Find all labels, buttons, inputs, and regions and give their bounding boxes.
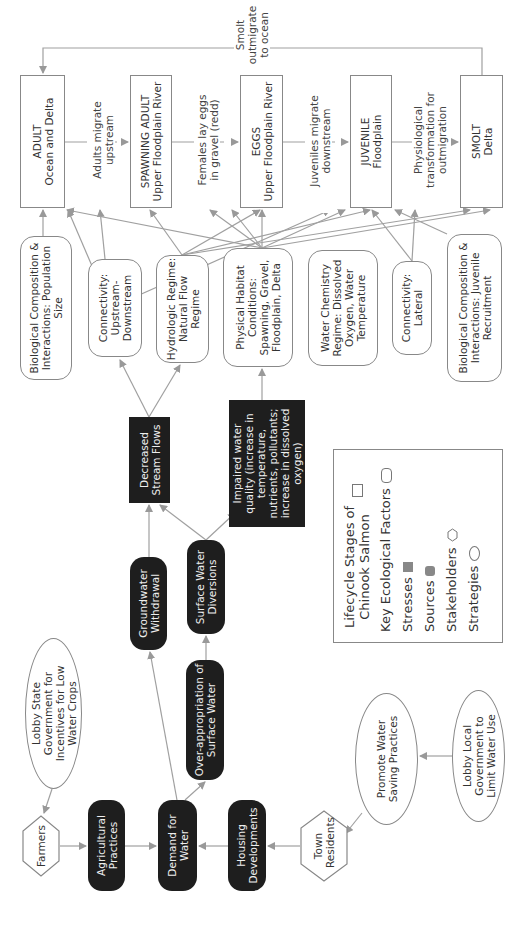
conceptual-model-diagram: ADULTOcean and Delta SPAWNING ADULTUpper…	[0, 0, 512, 925]
legend-sources-label: Sources	[422, 581, 438, 632]
source-over-appropriation: Over-appropriation of Surface Water	[186, 660, 224, 780]
stage-place: Floodplain	[371, 114, 383, 168]
stakeholder-town-residents: Town Residents	[300, 810, 348, 882]
source-demand-for-water: Demand for Water	[158, 800, 197, 891]
hexagon-swatch-icon	[447, 528, 458, 542]
factor-connectivity-upstream-downstream: Connectivity: Upstream-Downstream	[88, 259, 142, 357]
factor-physical-habitat: Physical Habitat Conditions: Spawning, G…	[223, 248, 293, 367]
strategy-promote-water-saving: Promote Water Saving Practices	[355, 693, 418, 825]
legend-stakeholders: Stakeholders	[444, 460, 460, 632]
lifecycle-smolt: SMOLTDelta	[460, 75, 503, 208]
legend-lifecycle: Lifecycle Stages of Chinook Salmon	[342, 460, 372, 632]
legend: Lifecycle Stages of Chinook Salmon Key E…	[333, 449, 503, 643]
factor-hydrologic-regime: Hydrologic Regime: Natural Flow Regime	[156, 255, 209, 363]
stage-place: Upper Floodplain River	[262, 82, 274, 202]
filled-square-swatch-icon	[403, 562, 413, 572]
lifecycle-adult: ADULTOcean and Delta	[20, 75, 65, 208]
factor-connectivity-lateral: Connectivity: Lateral	[392, 261, 432, 355]
stress-impaired-water-quality: Impaired water quality (increase in temp…	[229, 400, 305, 527]
legend-stresses-label: Stresses	[400, 577, 416, 632]
factor-population-size: Biological Composition & Interactions: P…	[20, 236, 72, 380]
stage-title: JUVENILE	[359, 114, 371, 168]
legend-strategies-label: Strategies	[466, 566, 482, 632]
legend-strategies: Strategies	[466, 460, 482, 632]
legend-factors: Key Ecological Factors	[378, 460, 394, 632]
ellipse-swatch-icon	[469, 546, 480, 561]
stress-decreased-stream-flows: Decreased Stream Flows	[129, 417, 170, 503]
stakeholder-label: Town Residents	[312, 824, 336, 868]
source-groundwater-withdrawal: Groundwater Withdrawal	[130, 557, 167, 650]
stage-title: SMOLT	[470, 124, 482, 159]
stage-place: Upper Floodplain River	[151, 82, 163, 202]
stage-title: ADULT	[31, 97, 43, 185]
source-agricultural-practices: Agricultural Practices	[88, 800, 125, 891]
stage-place: Delta	[482, 124, 494, 159]
legend-stakeholders-label: Stakeholders	[444, 547, 460, 632]
transition-label-upstream: Adults migrate upstream	[91, 75, 115, 205]
filled-rounded-swatch-icon	[425, 566, 435, 576]
transition-label-outmigrate: Smolt outmigrate to ocean	[234, 0, 270, 70]
factor-juvenile-recruitment: Biological Composition & Interactions: J…	[447, 234, 502, 382]
lifecycle-juvenile: JUVENILEFloodplain	[350, 75, 392, 208]
source-housing-developments: Housing Developments	[228, 800, 266, 891]
stage-place: Ocean and Delta	[43, 97, 55, 185]
lifecycle-spawning-adult: SPAWNING ADULTUpper Floodplain River	[130, 75, 172, 208]
transition-label-transformation: Physiological transformation for outmigr…	[412, 81, 448, 199]
legend-sources: Sources	[422, 460, 438, 632]
source-surface-water-diversions: Surface Water Diversions	[187, 540, 225, 634]
legend-stresses: Stresses	[400, 460, 416, 632]
factor-water-chemistry: Water Chemistry Regime: Dissolved Oxygen…	[308, 250, 378, 366]
lifecycle-eggs: EGGSUpper Floodplain River	[240, 75, 283, 208]
transition-label-lay-eggs: Females lay eggs in gravel (redd)	[196, 90, 220, 190]
stakeholder-farmers: Farmers	[22, 815, 60, 877]
stage-title: EGGS	[250, 82, 262, 202]
legend-lifecycle-label: Lifecycle Stages of Chinook Salmon	[342, 502, 372, 632]
strategy-lobby-state: Lobby State Government for Incentives fo…	[25, 638, 82, 789]
legend-factors-label: Key Ecological Factors	[378, 488, 394, 632]
rectangle-swatch-icon	[352, 484, 363, 497]
transition-label-downstream: Juveniles migrate downstream	[308, 69, 332, 213]
stakeholder-label: Farmers	[35, 825, 47, 867]
stage-title: SPAWNING ADULT	[139, 82, 151, 202]
strategy-lobby-local: Lobby Local Government to Limit Water Us…	[452, 690, 505, 822]
rounded-rectangle-swatch-icon	[381, 468, 392, 483]
